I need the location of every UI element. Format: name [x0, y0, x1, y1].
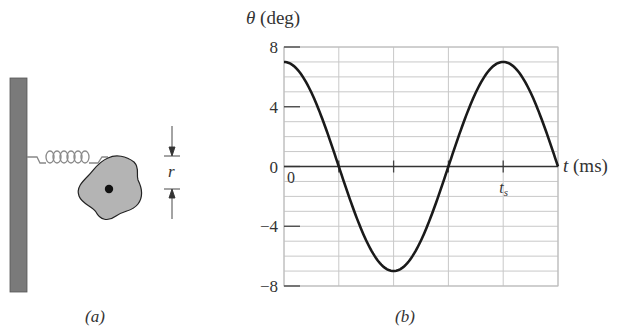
y-tick-labels: 840−4−8 — [260, 38, 279, 296]
dimension-label-r: r — [168, 162, 175, 181]
x-axis-label: t (ms) — [563, 155, 608, 177]
y-tick-label: −4 — [260, 217, 279, 236]
x-tick-labels: 0ts — [287, 169, 508, 198]
pivot — [105, 185, 113, 193]
caption-b: (b) — [395, 307, 415, 326]
spring-coils — [46, 151, 89, 163]
y-axis-label: θ (deg) — [246, 7, 300, 29]
spring — [27, 157, 46, 163]
y-tick-label: 0 — [270, 158, 279, 177]
wall — [10, 78, 27, 292]
y-tick-label: 8 — [270, 38, 279, 57]
y-tick-label: 4 — [270, 98, 279, 117]
panel-b: 840−4−8 0ts θ (deg) t (ms) (b) — [246, 7, 608, 326]
panel-a: r (a) — [10, 78, 180, 326]
caption-a: (a) — [85, 307, 105, 326]
x-tick-label: 0 — [287, 169, 295, 186]
y-tick-label: −8 — [260, 277, 278, 296]
y-axis-unit: (deg) — [255, 7, 300, 29]
x-axis-unit: (ms) — [568, 155, 608, 177]
figure: r (a) 840−4−8 0ts θ (deg) t (ms) (b) — [0, 0, 620, 333]
